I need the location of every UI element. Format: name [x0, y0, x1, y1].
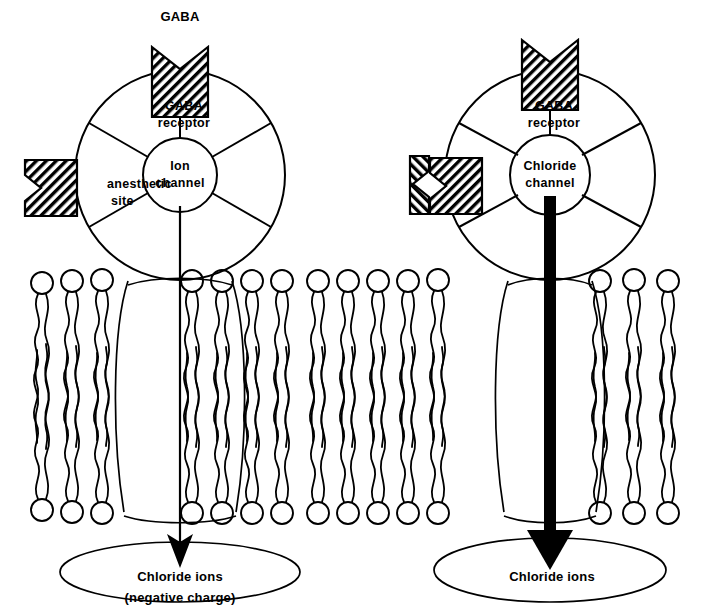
anesthetic-site-icon[interactable] — [25, 160, 77, 216]
receptor-label-line2: receptor — [528, 116, 580, 130]
channel-label-line1: Ion — [170, 159, 190, 173]
pool-label-line2: (negative charge) — [124, 590, 235, 605]
lipid-upper-leaflet — [31, 269, 113, 449]
pool-label-line1: Chloride ions — [509, 569, 595, 584]
lipid-lower-leaflet — [31, 344, 113, 524]
receptor-label-line1: GABA — [535, 99, 573, 113]
receptor-label-line1: GABA — [165, 99, 203, 113]
membrane-segment-far-right — [589, 269, 679, 524]
anesthetic-site-icon[interactable] — [430, 158, 482, 214]
channel-label-line1: Chloride — [523, 159, 576, 173]
anesthetic-site-label-line2: site — [111, 194, 134, 208]
channel-label-line2: channel — [525, 176, 574, 190]
downward-arrow-icon — [527, 196, 573, 570]
lipid-upper-leaflet — [181, 269, 449, 447]
gaba-ligand-label: GABA — [160, 9, 199, 24]
pool-label-line1: Chloride ions — [137, 569, 223, 584]
diagram-canvas: GABA GABA receptor anesthetic site Ion c… — [0, 0, 706, 612]
lipid-lower-leaflet — [589, 347, 679, 524]
gaba-receptor-diagram: GABA GABA receptor anesthetic site Ion c… — [0, 0, 706, 612]
receptor-label-line2: receptor — [158, 116, 210, 130]
anesthetic-drug-icon[interactable] — [410, 156, 429, 214]
lipid-lower-leaflet — [181, 347, 449, 524]
channel-label-line2: channel — [155, 176, 204, 190]
membrane-segment-middle — [181, 269, 449, 524]
membrane-segment-far-left — [31, 269, 113, 524]
